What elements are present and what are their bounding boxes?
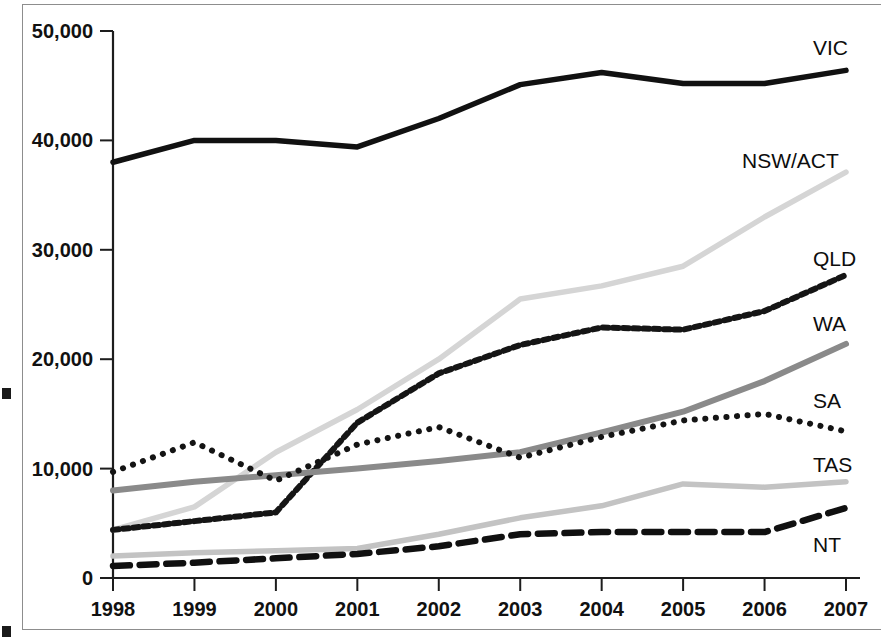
x-tick-label: 2004: [579, 598, 624, 620]
y-axis-ticks: [100, 31, 113, 578]
y-tick-label: 20,000: [32, 348, 93, 370]
x-tick-label: 1998: [91, 598, 136, 620]
x-tick-label: 2006: [742, 598, 787, 620]
series-line-nsw-act: [113, 172, 846, 530]
series-label-nsw-act: NSW/ACT: [742, 149, 839, 172]
x-axis-labels: 1998199920002001200220032004200520062007: [91, 598, 869, 620]
axis-lines: [113, 31, 860, 578]
x-tick-label: 2001: [335, 598, 380, 620]
x-tick-label: 1999: [172, 598, 217, 620]
y-tick-label: 50,000: [32, 20, 93, 42]
figure-container: 010,00020,00030,00040,00050,000 19981999…: [0, 0, 881, 642]
series-label-nt: NT: [813, 533, 841, 556]
x-tick-label: 2002: [417, 598, 462, 620]
series-label-sa: SA: [813, 389, 841, 412]
line-chart-svg: 010,00020,00030,00040,00050,000 19981999…: [0, 0, 881, 642]
y-tick-label: 10,000: [32, 458, 93, 480]
x-tick-label: 2003: [498, 598, 543, 620]
x-axis-ticks: [113, 578, 846, 591]
series-label-vic: VIC: [813, 36, 848, 59]
series-line-vic: [113, 70, 846, 162]
series-label-wa: WA: [813, 312, 846, 335]
series-label-tas: TAS: [813, 453, 852, 476]
x-tick-label: 2000: [254, 598, 299, 620]
y-tick-label: 40,000: [32, 129, 93, 151]
series-line-qld: [113, 275, 846, 530]
y-axis-labels: 010,00020,00030,00040,00050,000: [32, 20, 93, 589]
x-tick-label: 2007: [824, 598, 869, 620]
data-series-group: [113, 70, 846, 566]
plot-area: 010,00020,00030,00040,00050,000 19981999…: [0, 0, 881, 642]
series-label-qld: QLD: [813, 247, 856, 270]
y-tick-label: 30,000: [32, 239, 93, 261]
y-tick-label: 0: [82, 567, 93, 589]
x-tick-label: 2005: [661, 598, 706, 620]
series-line-sa: [113, 414, 846, 481]
